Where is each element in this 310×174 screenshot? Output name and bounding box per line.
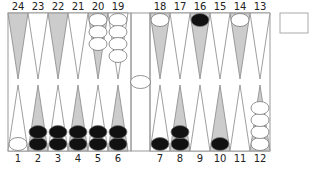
point-label-11: 11 (234, 153, 247, 164)
point-15[interactable] (210, 13, 230, 79)
black-checker[interactable] (49, 138, 67, 151)
white-checker[interactable] (251, 126, 269, 139)
point-9[interactable] (190, 85, 210, 151)
point-label-15: 15 (214, 1, 227, 12)
point-label-23: 23 (32, 1, 45, 12)
point-label-21: 21 (72, 1, 85, 12)
white-checker[interactable] (89, 14, 107, 27)
point-label-9: 9 (197, 153, 203, 164)
point-23[interactable] (28, 13, 48, 79)
white-checker-on-bar[interactable] (131, 76, 151, 89)
backgammon-board-view: 242322212019181716151413 123456789101112 (0, 0, 310, 174)
black-checker[interactable] (171, 126, 189, 139)
point-label-7: 7 (157, 153, 163, 164)
white-checker[interactable] (231, 14, 249, 27)
black-checker[interactable] (89, 126, 107, 139)
black-checker[interactable] (29, 138, 47, 151)
point-label-24: 24 (12, 1, 25, 12)
point-label-19: 19 (112, 1, 125, 12)
black-checker[interactable] (109, 126, 127, 139)
point-label-16: 16 (194, 1, 207, 12)
black-checker[interactable] (89, 138, 107, 151)
white-checker[interactable] (109, 50, 127, 63)
point-label-20: 20 (92, 1, 105, 12)
point-label-4: 4 (75, 153, 81, 164)
point-22[interactable] (48, 13, 68, 79)
white-checker[interactable] (251, 114, 269, 127)
point-21[interactable] (68, 13, 88, 79)
bottom-point-labels: 123456789101112 (15, 153, 267, 164)
black-checker[interactable] (109, 138, 127, 151)
top-point-labels: 242322212019181716151413 (12, 1, 267, 12)
point-13[interactable] (250, 13, 270, 79)
point-label-2: 2 (35, 153, 41, 164)
doubling-cube[interactable] (280, 13, 308, 33)
white-checker[interactable] (89, 38, 107, 51)
point-label-10: 10 (214, 153, 227, 164)
point-label-12: 12 (254, 153, 267, 164)
point-11[interactable] (230, 85, 250, 151)
white-checker[interactable] (89, 26, 107, 39)
black-checker[interactable] (49, 126, 67, 139)
point-label-3: 3 (55, 153, 61, 164)
white-checker[interactable] (251, 102, 269, 115)
point-label-18: 18 (154, 1, 167, 12)
point-17[interactable] (170, 13, 190, 79)
black-checker[interactable] (29, 126, 47, 139)
black-checker[interactable] (151, 138, 169, 151)
white-checker[interactable] (109, 26, 127, 39)
white-checker[interactable] (151, 14, 169, 27)
point-label-1: 1 (15, 153, 21, 164)
black-checker[interactable] (69, 126, 87, 139)
white-checker[interactable] (251, 138, 269, 151)
point-24[interactable] (8, 13, 28, 79)
black-checker[interactable] (171, 138, 189, 151)
point-label-13: 13 (254, 1, 267, 12)
point-label-8: 8 (177, 153, 183, 164)
black-checker[interactable] (69, 138, 87, 151)
bar-checkers (131, 76, 151, 89)
point-label-5: 5 (95, 153, 101, 164)
point-label-14: 14 (234, 1, 247, 12)
black-checker[interactable] (191, 14, 209, 27)
white-checker[interactable] (109, 14, 127, 27)
point-label-6: 6 (115, 153, 121, 164)
black-checker[interactable] (211, 138, 229, 151)
point-label-22: 22 (52, 1, 65, 12)
point-label-17: 17 (174, 1, 187, 12)
white-checker[interactable] (9, 138, 27, 151)
white-checker[interactable] (109, 38, 127, 51)
